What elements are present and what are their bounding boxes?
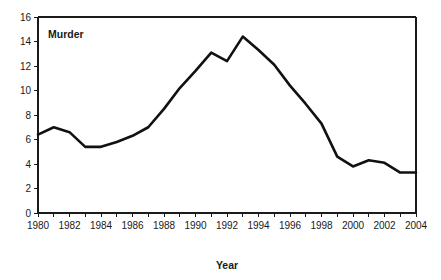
x-tick-label-1996: 1996 — [279, 220, 302, 231]
y-tick-label-2: 2 — [25, 183, 31, 194]
x-tick-label-1986: 1986 — [121, 220, 144, 231]
y-tick-label-10: 10 — [20, 85, 32, 96]
x-tick-label-1990: 1990 — [184, 220, 207, 231]
x-tick-label-1984: 1984 — [90, 220, 113, 231]
y-tick-label-14: 14 — [20, 36, 32, 47]
x-tick-label-2002: 2002 — [373, 220, 396, 231]
x-tick-label-2004: 2004 — [405, 220, 428, 231]
x-tick-label-2000: 2000 — [342, 220, 365, 231]
y-tick-label-16: 16 — [20, 12, 32, 23]
x-tick-label-1992: 1992 — [216, 220, 239, 231]
x-tick-label-1982: 1982 — [58, 220, 81, 231]
y-tick-label-4: 4 — [25, 159, 31, 170]
y-tick-label-6: 6 — [25, 134, 31, 145]
x-tick-label-1980: 1980 — [27, 220, 50, 231]
y-tick-label-0: 0 — [25, 208, 31, 219]
y-axis-tick-labels: 0246810121416 — [20, 12, 32, 219]
y-tick-label-8: 8 — [25, 110, 31, 121]
line-chart-plot: 0246810121416 19801982198419861988199019… — [0, 0, 441, 280]
x-axis-title: Year — [216, 259, 238, 271]
series-label-murder: Murder — [48, 28, 84, 40]
y-tick-label-12: 12 — [20, 61, 32, 72]
x-tick-label-1998: 1998 — [310, 220, 333, 231]
x-tick-label-1988: 1988 — [153, 220, 176, 231]
murder-rate-line — [38, 37, 416, 173]
x-axis-tick-labels: 1980198219841986198819901992199419961998… — [27, 220, 428, 231]
chart-container: 0246810121416 19801982198419861988199019… — [0, 0, 441, 280]
x-tick-label-1994: 1994 — [247, 220, 270, 231]
